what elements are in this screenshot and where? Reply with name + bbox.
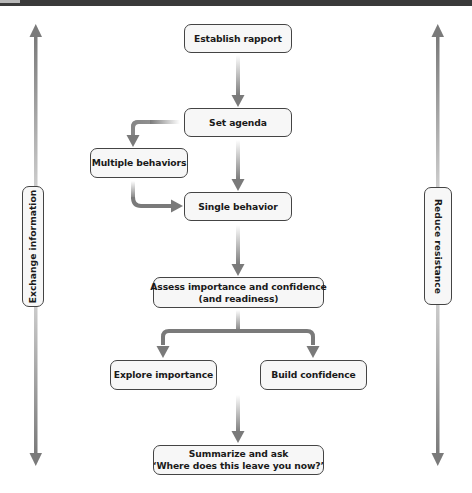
node-summarize-and-ask: Summarize and ask ‘Where does this leave… <box>153 445 324 475</box>
node-explore-importance: Explore importance <box>110 360 217 390</box>
node-label-line1: Summarize and ask <box>189 448 289 460</box>
node-assess-importance-confidence: Assess importance and confidence (and re… <box>153 277 324 308</box>
node-label-line1: Assess importance and confidence <box>150 281 326 293</box>
node-multiple-behaviors: Multiple behaviors <box>90 148 188 178</box>
side-label-reduce-resistance: Reduce resistance <box>424 187 452 305</box>
arrow-agenda-to-single-icon <box>232 140 245 191</box>
arrow-multiple-to-single-icon <box>131 181 183 213</box>
arrow-single-to-assess-icon <box>232 225 245 276</box>
node-label: Single behavior <box>198 201 278 213</box>
node-label: Multiple behaviors <box>92 157 187 169</box>
connector-layer <box>0 0 472 493</box>
arrow-assess-split-icon <box>157 310 320 358</box>
side-label-exchange-information: Exchange information <box>22 186 44 307</box>
arrow-agenda-to-multiple-icon <box>127 120 181 147</box>
node-label-line2: (and readiness) <box>199 293 279 305</box>
node-label: Set agenda <box>209 117 267 129</box>
node-label: Explore importance <box>114 369 213 381</box>
node-set-agenda: Set agenda <box>184 108 292 137</box>
node-label-line2: ‘Where does this leave you now?’ <box>153 460 324 472</box>
node-build-confidence: Build confidence <box>260 360 367 390</box>
side-label-text: Exchange information <box>28 190 39 304</box>
node-label: Build confidence <box>271 369 356 381</box>
arrow-to-summarize-icon <box>232 395 245 443</box>
arrow-rapport-to-agenda-icon <box>232 55 245 107</box>
node-single-behavior: Single behavior <box>184 192 292 221</box>
side-label-text: Reduce resistance <box>433 199 444 294</box>
node-establish-rapport: Establish rapport <box>184 24 292 53</box>
node-label: Establish rapport <box>194 33 282 45</box>
